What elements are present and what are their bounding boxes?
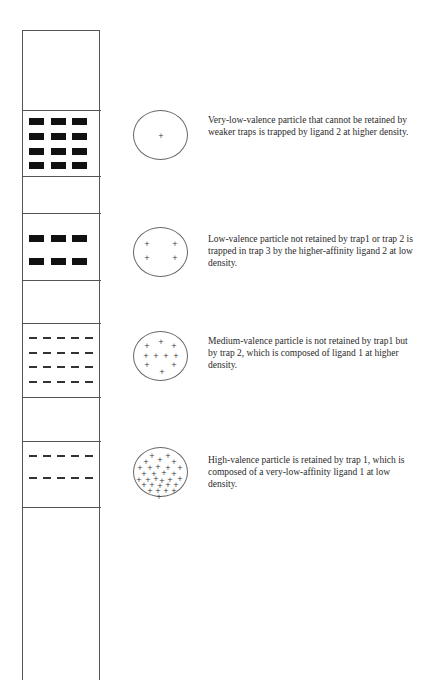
ligand-block <box>51 235 66 242</box>
column-divider <box>22 176 101 177</box>
column-divider <box>22 323 101 324</box>
ligand-block <box>29 235 44 242</box>
charge-plus: + <box>161 470 167 477</box>
ligand-block <box>29 133 44 140</box>
ligand-dash <box>29 337 37 339</box>
ligand-block <box>72 148 87 155</box>
ligand-dash <box>43 352 51 354</box>
ligand-block <box>29 258 44 265</box>
ligand-dash <box>71 477 79 479</box>
ligand-dash <box>57 455 65 457</box>
charge-plus: + <box>144 241 150 248</box>
ligand-dash <box>57 366 65 368</box>
ligand-dash <box>71 366 79 368</box>
charge-plus: + <box>165 453 171 460</box>
charge-plus: + <box>144 255 150 262</box>
ligand-dash <box>29 455 37 457</box>
charge-plus: + <box>171 343 177 350</box>
charge-plus: + <box>172 255 178 262</box>
charge-plus: + <box>172 241 178 248</box>
ligand-dash <box>85 337 93 339</box>
ligand-dash <box>43 366 51 368</box>
charge-plus: + <box>159 369 165 376</box>
medium-valence-particle-icon: + + + + + + + + + + <box>133 331 188 381</box>
ligand-dash <box>29 366 37 368</box>
charge-plus: + <box>141 482 147 489</box>
charge-plus: + <box>177 465 183 472</box>
medium-valence-caption: Medium-valence particle is not retained … <box>208 335 418 371</box>
ligand-dash <box>29 352 37 354</box>
low-valence-particle-icon: + + + + <box>133 227 188 277</box>
charge-plus: + <box>158 339 164 346</box>
ligand-block <box>72 258 87 265</box>
ligand-dash <box>29 381 37 383</box>
very-low-valence-particle-icon: + <box>133 110 188 160</box>
ligand-block <box>72 118 87 125</box>
ligand-block <box>51 118 66 125</box>
ligand-dash <box>57 381 65 383</box>
ligand-block <box>51 162 66 169</box>
column-divider <box>22 441 101 442</box>
charge-plus: + <box>163 353 169 360</box>
ligand-dash <box>29 477 37 479</box>
column-divider <box>22 397 101 398</box>
very-low-valence-caption: Very-low-valence particle that cannot be… <box>208 114 418 138</box>
charge-plus: + <box>158 133 164 140</box>
low-valence-caption: Low-valence particle not retained by tra… <box>208 233 418 269</box>
ligand-dash <box>57 352 65 354</box>
ligand-dash <box>71 381 79 383</box>
ligand-dash <box>85 352 93 354</box>
charge-plus: + <box>143 353 149 360</box>
ligand-block <box>72 162 87 169</box>
charge-plus: + <box>163 488 169 495</box>
ligand-block <box>51 133 66 140</box>
column-divider <box>22 213 101 214</box>
ligand-dash <box>43 337 51 339</box>
charge-plus: + <box>156 494 162 501</box>
charge-plus: + <box>153 353 159 360</box>
ligand-block <box>29 162 44 169</box>
charge-plus: + <box>171 488 177 495</box>
ligand-block <box>29 148 44 155</box>
ligand-dash <box>85 477 93 479</box>
high-valence-caption: High-valence particle is retained by tra… <box>208 454 418 490</box>
ligand-block <box>29 118 44 125</box>
charge-plus: + <box>149 453 155 460</box>
ligand-dash <box>43 381 51 383</box>
ligand-dash <box>85 381 93 383</box>
ligand-block <box>51 148 66 155</box>
charge-plus: + <box>173 353 179 360</box>
ligand-dash <box>85 455 93 457</box>
ligand-block <box>51 258 66 265</box>
affinity-column <box>22 30 100 680</box>
ligand-dash <box>43 455 51 457</box>
charge-plus: + <box>147 488 153 495</box>
column-divider <box>22 507 101 508</box>
ligand-dash <box>85 366 93 368</box>
high-valence-particle-icon: + + + + + + + + + + + + + + + + + + + + … <box>133 447 188 497</box>
ligand-dash <box>43 477 51 479</box>
ligand-dash <box>71 352 79 354</box>
ligand-block <box>72 133 87 140</box>
charge-plus: + <box>144 343 150 350</box>
charge-plus: + <box>171 459 177 466</box>
ligand-dash <box>71 455 79 457</box>
ligand-dash <box>71 337 79 339</box>
column-divider <box>22 110 101 111</box>
ligand-block <box>72 235 87 242</box>
column-divider <box>22 280 101 281</box>
ligand-dash <box>57 477 65 479</box>
charge-plus: + <box>171 362 177 369</box>
ligand-dash <box>57 337 65 339</box>
charge-plus: + <box>144 362 150 369</box>
